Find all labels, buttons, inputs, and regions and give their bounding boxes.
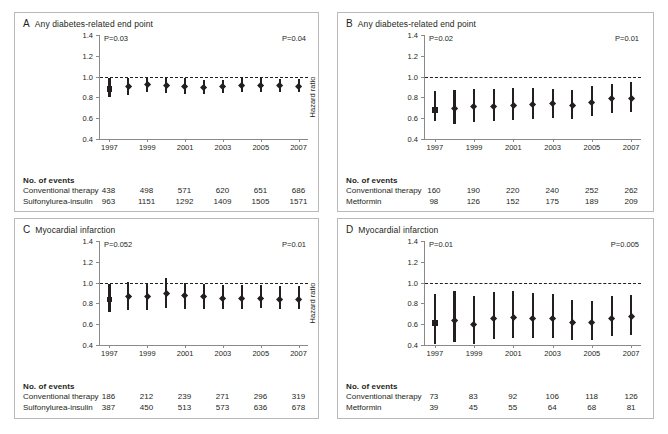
y-axis-tick: 0.8 <box>96 97 100 98</box>
table-row: Metformin394555646881 <box>346 403 647 414</box>
events-row-label: Sulfonylurea-insulin <box>23 403 93 412</box>
events-cell: 220 <box>506 186 519 195</box>
hazard-ratio-marker <box>257 294 264 301</box>
hazard-ratio-marker <box>276 295 283 302</box>
hazard-ratio-marker <box>276 82 283 89</box>
hazard-ratio-marker <box>490 103 497 110</box>
y-axis-tick-label: 1.2 <box>83 258 93 267</box>
events-cell: 1151 <box>138 197 155 206</box>
hazard-ratio-marker <box>608 315 615 322</box>
y-axis-tick: 1.4 <box>96 35 100 36</box>
events-cell: 678 <box>292 403 305 412</box>
events-cell: 83 <box>469 392 478 401</box>
x-axis-tick-label: 1997 <box>101 143 118 152</box>
hazard-ratio-marker <box>549 315 556 322</box>
hazard-ratio-marker <box>107 86 112 91</box>
x-axis-tick-label: 2003 <box>544 349 561 358</box>
y-axis-tick-label: 0.6 <box>83 114 93 123</box>
y-axis-tick-label: 0.4 <box>83 135 93 144</box>
confidence-interval-whisker <box>434 294 436 344</box>
y-axis-tick-label: 0.6 <box>408 320 418 329</box>
events-cell: 271 <box>216 392 229 401</box>
y-axis-tick: 0.6 <box>421 118 425 119</box>
panel-b-plot-wrap: Hazard ratio 0.40.60.81.01.21.4P=0.02P=0… <box>338 31 653 163</box>
panel-b-letter: B <box>346 18 353 29</box>
events-cell: 571 <box>178 186 191 195</box>
x-axis-tick <box>631 345 632 348</box>
y-axis-tick: 1.4 <box>421 241 425 242</box>
y-axis-tick-label: 0.4 <box>408 135 418 144</box>
panel-c-title: CMyocardial infarction <box>23 224 115 235</box>
events-cell: 81 <box>627 403 636 412</box>
y-axis-tick: 0.6 <box>96 324 100 325</box>
x-axis-tick <box>435 345 436 348</box>
events-cell: 39 <box>429 403 438 412</box>
events-cell: 1505 <box>252 197 270 206</box>
reference-line <box>425 283 641 284</box>
x-axis-tick-label: 2001 <box>505 349 522 358</box>
panel-c-events-table: No. of events Conventional therapy186212… <box>23 382 312 414</box>
panel-b: BAny diabetes-related end point Hazard r… <box>337 12 654 212</box>
y-axis-tick: 1.4 <box>96 241 100 242</box>
x-axis-tick-label: 2005 <box>252 143 269 152</box>
events-cell: 126 <box>467 197 480 206</box>
y-axis-tick: 0.4 <box>421 139 425 140</box>
panel-c-plot-wrap: Hazard ratio 0.40.60.81.01.21.4P=0.052P=… <box>15 237 318 369</box>
x-axis-tick-label: 2005 <box>252 349 269 358</box>
x-axis-tick-label: 2003 <box>215 143 232 152</box>
hazard-ratio-marker <box>588 319 595 326</box>
events-cell: 620 <box>216 186 229 195</box>
hazard-ratio-marker <box>451 105 458 112</box>
p-value-right: P=0.005 <box>611 240 639 249</box>
hazard-ratio-marker <box>295 295 302 302</box>
panel-a-events-header: No. of events <box>23 176 312 185</box>
x-axis-tick <box>592 139 593 142</box>
events-cell: 160 <box>427 186 440 195</box>
panel-b-title-text: Any diabetes-related end point <box>358 19 476 29</box>
x-axis-tick <box>261 345 262 348</box>
hazard-ratio-marker <box>238 82 245 89</box>
hazard-ratio-marker <box>549 100 556 107</box>
hazard-ratio-marker <box>144 293 151 300</box>
hazard-ratio-marker <box>451 317 458 324</box>
hazard-ratio-marker <box>219 294 226 301</box>
p-value-left: P=0.01 <box>429 240 453 249</box>
x-axis-tick-label: 2007 <box>290 349 307 358</box>
y-axis-tick: 1.4 <box>421 35 425 36</box>
events-cell: 73 <box>429 392 438 401</box>
events-row-label: Sulfonylurea-insulin <box>23 197 93 206</box>
x-axis-tick-label: 2001 <box>177 349 194 358</box>
table-row: Conventional therapy186212239271296319 <box>23 392 312 403</box>
hazard-ratio-marker <box>510 102 517 109</box>
hazard-ratio-marker <box>163 82 170 89</box>
hazard-ratio-marker <box>470 320 477 327</box>
events-cell: 212 <box>140 392 153 401</box>
x-axis-tick <box>185 139 186 142</box>
events-row-label: Metformin <box>346 197 382 206</box>
x-axis-tick-label: 2001 <box>505 143 522 152</box>
x-axis-tick-label: 1997 <box>101 349 118 358</box>
y-axis-tick: 0.6 <box>96 118 100 119</box>
y-axis-tick-label: 1.4 <box>408 237 418 246</box>
panel-d-events-header: No. of events <box>346 382 647 391</box>
p-value-left: P=0.052 <box>104 240 132 249</box>
panel-d: DMyocardial infarction Hazard ratio 0.40… <box>337 218 654 419</box>
panel-c-letter: C <box>23 224 30 235</box>
events-cell: 55 <box>508 403 517 412</box>
events-cell: 252 <box>585 186 598 195</box>
events-cell: 450 <box>140 403 153 412</box>
x-axis-tick <box>299 345 300 348</box>
x-axis-tick <box>223 345 224 348</box>
events-cell: 152 <box>506 197 519 206</box>
events-cell: 1292 <box>176 197 194 206</box>
y-axis-tick-label: 0.8 <box>408 93 418 102</box>
panel-d-letter: D <box>346 224 353 235</box>
y-axis-tick-label: 1.0 <box>83 73 93 82</box>
events-cell: 189 <box>585 197 598 206</box>
hazard-ratio-marker <box>107 297 112 302</box>
events-cell: 438 <box>102 186 115 195</box>
x-axis-tick-label: 2003 <box>215 349 232 358</box>
panel-d-plot: 0.40.60.81.01.21.4P=0.01P=0.005199719992… <box>424 241 641 346</box>
x-axis-tick <box>109 139 110 142</box>
reference-line <box>425 77 641 78</box>
